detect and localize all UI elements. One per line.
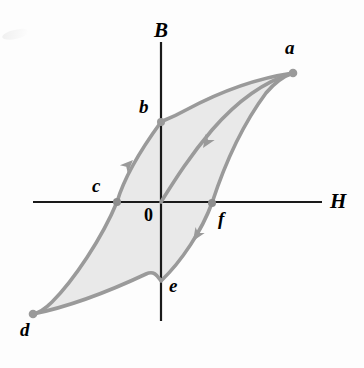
point-marker-a [289,69,298,78]
point-marker-c [113,198,121,206]
axis-label-h: H [330,191,346,212]
point-label-a: a [285,38,295,57]
point-label-f: f [218,209,224,228]
point-label-c: c [92,176,100,195]
point-label-e: e [169,276,177,295]
point-marker-b [157,118,165,126]
point-label-b: b [139,97,149,116]
origin-label: 0 [144,206,153,224]
hysteresis-plot [0,0,364,368]
point-marker-d [29,310,38,319]
axis-label-b: B [154,20,168,41]
point-marker-f [208,199,216,207]
point-label-d: d [20,320,30,339]
hysteresis-loop-figure: B H 0 a b c d e f [0,0,364,368]
